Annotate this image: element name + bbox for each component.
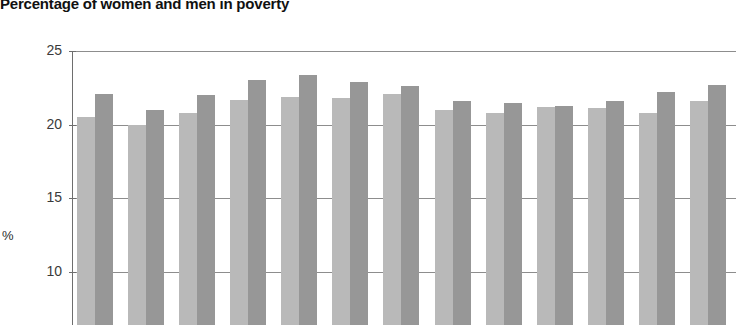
bar-series-container — [72, 0, 736, 325]
bar-women — [128, 125, 146, 325]
bar-women — [179, 113, 197, 325]
bar-men — [708, 85, 726, 325]
bar-women — [383, 94, 401, 325]
bar-group — [383, 0, 434, 325]
bar-group — [77, 0, 128, 325]
y-axis-tick-label: 10 — [22, 263, 62, 279]
y-axis-label: % — [2, 228, 14, 243]
bar-women — [537, 107, 555, 325]
bar-men — [350, 82, 368, 325]
bar-group — [639, 0, 690, 325]
bar-men — [453, 101, 471, 325]
bar-men — [197, 95, 215, 325]
bar-men — [248, 80, 266, 325]
bar-men — [95, 94, 113, 325]
bar-women — [281, 97, 299, 325]
bar-group — [588, 0, 639, 325]
bar-women — [486, 113, 504, 325]
bar-men — [299, 75, 317, 325]
chart-figure: Percentage of women and men in poverty %… — [0, 0, 736, 325]
bar-group — [537, 0, 588, 325]
bar-group — [690, 0, 736, 325]
bar-group — [179, 0, 230, 325]
bar-men — [657, 92, 675, 325]
bar-men — [606, 101, 624, 325]
bar-women — [230, 100, 248, 325]
bar-group — [281, 0, 332, 325]
plot-area: % 25201510 — [0, 0, 736, 325]
bar-men — [504, 103, 522, 325]
bar-men — [401, 86, 419, 325]
bar-women — [435, 110, 453, 325]
y-axis-tick-label: 15 — [22, 189, 62, 205]
bar-women — [639, 113, 657, 325]
bar-group — [128, 0, 179, 325]
y-axis-tick-label: 25 — [22, 42, 62, 58]
bar-group — [486, 0, 537, 325]
bar-men — [555, 106, 573, 325]
y-axis-tick-label: 20 — [22, 116, 62, 132]
bar-women — [690, 101, 708, 325]
bar-group — [332, 0, 383, 325]
bar-women — [588, 108, 606, 325]
bar-group — [435, 0, 486, 325]
bar-group — [230, 0, 281, 325]
bar-women — [77, 117, 95, 325]
bar-women — [332, 98, 350, 325]
bar-men — [146, 110, 164, 325]
